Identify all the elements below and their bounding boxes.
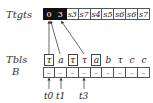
pointer-label-t0: t0: [44, 91, 53, 101]
pointer-label-t1: t1: [56, 91, 65, 101]
arrow-tbls3-to-3: [62, 22, 84, 54]
arrows-layer: [0, 0, 153, 103]
arrow-tbls1-to-0: [51, 22, 60, 54]
pointer-label-t3: t3: [79, 91, 88, 101]
